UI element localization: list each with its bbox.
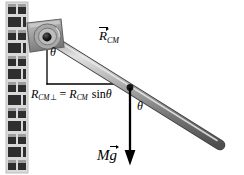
figure-canvas: RCM θ θ RCM⊥=RCMsinθ Mg	[0, 0, 244, 175]
brick-wall	[6, 2, 28, 173]
vector-arrow-overbar-g	[110, 146, 119, 147]
equals-sign: =	[57, 87, 70, 101]
label-rcm-vector-subscript: CM	[107, 36, 119, 45]
lhs-subscript: CM	[38, 93, 49, 102]
weight-vector-arrow	[125, 88, 136, 166]
rhs-subscript: CM	[77, 93, 88, 102]
label-theta-pivot: θ	[50, 46, 56, 58]
vector-arrow-overbar	[99, 27, 108, 28]
perpendicular-symbol: ⊥	[50, 93, 57, 102]
label-theta-rod: θ	[137, 100, 143, 112]
label-mg: Mg	[97, 148, 117, 163]
pivot-hinge	[34, 24, 61, 49]
vector-overbar-group: R	[99, 29, 107, 42]
rhs-angle: θ	[106, 87, 112, 101]
label-rcm-perp-equation: RCM⊥=RCMsinθ	[31, 88, 112, 100]
label-mg-mass: M	[97, 147, 110, 163]
label-mg-gravity: g	[110, 147, 118, 163]
vector-overbar-group-g: g	[110, 148, 118, 163]
sine-function: sin	[88, 87, 106, 101]
label-rcm-vector: RCM	[99, 29, 119, 42]
rhs-main: R	[69, 87, 76, 101]
